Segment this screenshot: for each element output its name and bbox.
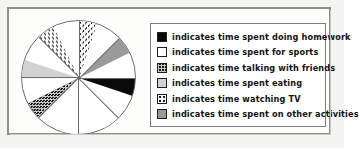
legend-box: indicates time spent doing homework indi…	[150, 23, 326, 127]
pie-circle	[21, 20, 136, 135]
legend-item-label: indicates time spent on other activities	[172, 109, 359, 119]
white-swatch-icon	[157, 47, 167, 57]
dotted-swatch-icon	[157, 94, 167, 104]
legend-item-other: indicates time spent on other activities	[157, 107, 321, 123]
pie-spoke-180	[78, 78, 79, 135]
legend-item-label: indicates time spent eating	[172, 78, 302, 88]
legend-item-homework: indicates time spent doing homework	[157, 29, 321, 45]
medium-gray-swatch-icon	[157, 109, 167, 119]
solid-black-swatch-icon	[157, 32, 167, 42]
light-gray-swatch-icon	[157, 78, 167, 88]
pie-spoke-0	[79, 21, 80, 78]
legend-item-label: indicates time spent doing homework	[172, 32, 351, 42]
legend-item-label: indicates time spent for sports	[172, 47, 318, 57]
figure-frame: indicates time spent doing homework indi…	[7, 7, 331, 135]
legend-item-label: indicates time watching TV	[172, 94, 301, 104]
legend-item-tv: indicates time watching TV	[157, 91, 321, 107]
legend-item-friends: indicates time talking with friends	[157, 60, 321, 76]
pie-chart	[18, 19, 140, 137]
legend-item-eating: indicates time spent eating	[157, 76, 321, 92]
pie-spoke-90	[79, 78, 136, 79]
pie-spoke-270	[22, 77, 79, 78]
legend-item-label: indicates time talking with friends	[172, 63, 335, 73]
dark-grid-swatch-icon	[157, 63, 167, 73]
legend-item-sports: indicates time spent for sports	[157, 45, 321, 61]
